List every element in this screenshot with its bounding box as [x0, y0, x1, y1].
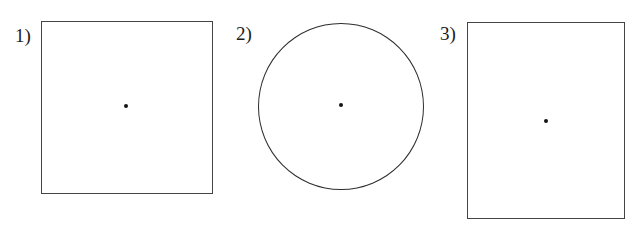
center-dot-2 [339, 103, 343, 107]
shape-label-3: 3) [440, 24, 456, 43]
center-dot-3 [544, 119, 548, 123]
shape-label-2: 2) [236, 24, 252, 43]
shapes-figure: 1) 2) 3) [0, 0, 640, 228]
center-dot-1 [124, 104, 128, 108]
shape-label-1: 1) [15, 26, 31, 45]
